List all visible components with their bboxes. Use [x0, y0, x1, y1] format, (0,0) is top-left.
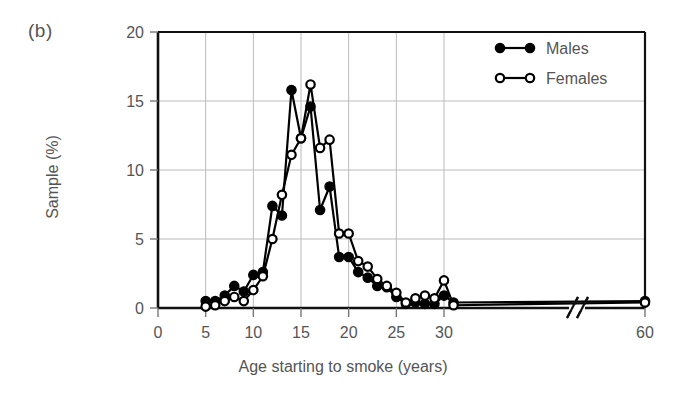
data-point [315, 205, 324, 214]
x-tick-label: 15 [292, 324, 310, 341]
data-point [287, 151, 295, 159]
axis-break-marks [567, 297, 588, 318]
data-point [344, 252, 353, 261]
data-point [287, 85, 296, 94]
data-point [335, 229, 343, 237]
males-legend-marker [525, 43, 534, 52]
data-point [211, 301, 219, 309]
x-tick-label: 5 [201, 324, 210, 341]
data-point [641, 298, 649, 306]
chart-legend: MalesFemales [495, 40, 607, 87]
data-point [268, 235, 276, 243]
y-tick-label: 5 [135, 231, 144, 248]
data-point [230, 281, 239, 290]
data-point [240, 297, 248, 305]
y-tick-label: 0 [135, 300, 144, 317]
males-legend-label: Males [546, 40, 589, 57]
data-series-layer [201, 80, 650, 311]
data-point [364, 262, 372, 270]
data-point [335, 252, 344, 261]
x-tick-label: 60 [636, 324, 654, 341]
data-point [344, 229, 352, 237]
data-point [421, 291, 429, 299]
females-legend-marker [526, 74, 534, 82]
x-tick-label: 0 [154, 324, 163, 341]
data-point [306, 80, 314, 88]
data-point [316, 144, 324, 152]
females-legend-marker [496, 74, 504, 82]
x-tick-label: 25 [387, 324, 405, 341]
x-tick-label: 20 [340, 324, 358, 341]
data-point [449, 301, 457, 309]
series-males [201, 85, 650, 308]
data-point [430, 294, 438, 302]
data-point [325, 182, 334, 191]
data-point [392, 289, 400, 297]
data-point [383, 282, 391, 290]
data-point [363, 273, 372, 282]
data-point [249, 286, 257, 294]
data-point [249, 270, 258, 279]
data-point [402, 298, 410, 306]
x-tick-label: 30 [435, 324, 453, 341]
data-point [439, 291, 448, 300]
y-tick-label: 20 [126, 24, 144, 41]
data-point [354, 268, 363, 277]
data-point [297, 134, 305, 142]
y-tick-label: 15 [126, 93, 144, 110]
data-point [239, 287, 248, 296]
data-point [259, 272, 267, 280]
data-point [230, 293, 238, 301]
data-point [268, 201, 277, 210]
data-point [440, 276, 448, 284]
x-tick-label: 10 [244, 324, 262, 341]
females-legend-label: Females [546, 70, 607, 87]
data-point [278, 191, 286, 199]
series-females [201, 80, 649, 311]
y-tick-label: 10 [126, 162, 144, 179]
data-point [411, 294, 419, 302]
males-legend-marker [495, 43, 504, 52]
data-point [325, 135, 333, 143]
data-point [221, 297, 229, 305]
figure-panel-b: (b) Sample (%) Age starting to smoke (ye… [0, 0, 686, 402]
data-point [201, 302, 209, 310]
data-point [373, 275, 381, 283]
chart-canvas: 0510152005101520253060 MalesFemales [0, 0, 686, 402]
data-point [354, 257, 362, 265]
